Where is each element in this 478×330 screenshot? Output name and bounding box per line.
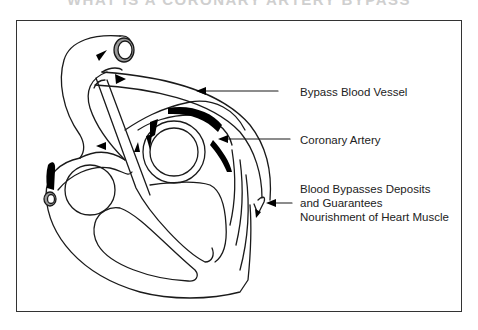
label-bypass-vessel: Bypass Blood Vessel <box>300 85 407 99</box>
arrow-icon <box>96 142 106 150</box>
left-chamber-circle <box>65 165 115 215</box>
aorta-opening-left <box>44 192 56 206</box>
label-bypass-note-2: and Guarantees <box>300 196 382 210</box>
label-pointers <box>196 87 292 207</box>
coronary-branches <box>230 150 248 270</box>
graft-insertion <box>254 197 265 218</box>
heart-diagram <box>0 0 478 330</box>
arrow-icon <box>96 50 107 61</box>
label-bypass-note-3: Nourishment of Heart Muscle <box>300 210 449 224</box>
aorta-opening-top <box>114 38 134 62</box>
top-chamber-circle <box>150 128 198 176</box>
arrow-icon <box>134 142 140 152</box>
label-coronary-artery: Coronary Artery <box>300 133 381 147</box>
arrow-icon <box>115 74 126 84</box>
label-bypass-note-1: Blood Bypasses Deposits <box>300 182 430 196</box>
